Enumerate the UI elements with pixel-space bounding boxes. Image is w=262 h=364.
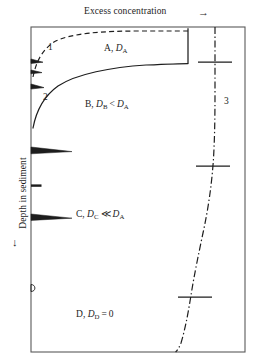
region-d-ref: 0: [109, 309, 114, 319]
bump-low: [31, 285, 35, 292]
y-axis-label-group: Depth in sediment: [12, 133, 28, 253]
plot-frame: [31, 27, 245, 352]
region-a-symbol: D: [116, 43, 123, 53]
region-b-ref: D: [117, 99, 124, 109]
region-b-subscript: B: [103, 103, 108, 110]
spike-top-3: [31, 84, 44, 89]
region-a-subscript: A: [123, 47, 128, 54]
region-d-zone: D: [76, 309, 83, 319]
curve-3-dashdot: [176, 27, 215, 352]
curve-label-1: 1: [48, 43, 53, 53]
region-c-ref-subscript: A: [119, 213, 124, 220]
curve-label-3: 3: [224, 97, 229, 107]
curve-2-solid: [33, 64, 188, 129]
region-label-c: C, DC≪DA: [76, 210, 124, 220]
region-d-symbol: D: [88, 309, 95, 319]
region-c-relation: ≪: [101, 209, 111, 219]
region-b-ref-subscript: A: [124, 103, 129, 110]
region-label-b: B, DB<DA: [85, 100, 129, 110]
region-label-a: A, DA: [104, 44, 127, 54]
curve-label-2: 2: [43, 93, 48, 103]
left-axis-spikes: [31, 59, 72, 292]
region-b-symbol: D: [96, 99, 103, 109]
spike-top-2: [31, 70, 42, 74]
region-d-subscript: D: [95, 313, 100, 320]
region-label-d: D, DD=0: [76, 310, 114, 320]
curve-1-dashed: [33, 31, 188, 77]
y-axis-title: Depth in sediment: [18, 157, 28, 228]
region-c-subscript: C: [94, 213, 99, 220]
plot-canvas: [0, 0, 262, 364]
region-d-relation: =: [101, 309, 106, 319]
region-b-relation: <: [110, 99, 115, 109]
tick-mid: [31, 184, 42, 186]
region-a-zone: A: [104, 43, 111, 53]
top-axis-title: Excess concentration: [84, 7, 166, 17]
spike-top-1: [31, 59, 43, 63]
spike-mid-1: [31, 147, 72, 154]
figure-root: Excess concentration → Depth in sediment…: [0, 0, 262, 364]
spike-mid-2: [31, 214, 72, 220]
y-axis-arrow-icon: ↓: [12, 237, 18, 248]
region-c-symbol: D: [87, 209, 94, 219]
top-axis-arrow-icon: →: [198, 7, 209, 18]
